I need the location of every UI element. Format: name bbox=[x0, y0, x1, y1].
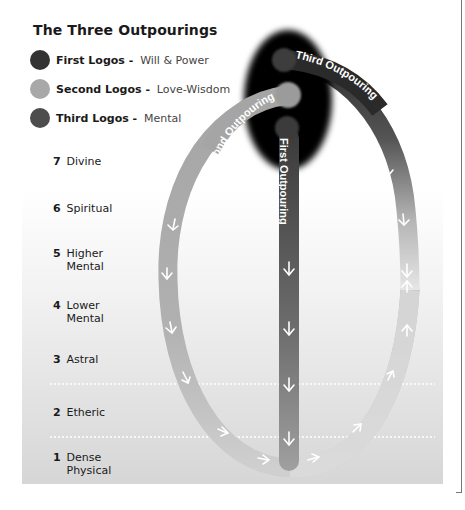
circle-dot-medium-icon bbox=[30, 108, 50, 128]
legend-separator: - bbox=[125, 54, 137, 67]
second-logos-dot bbox=[275, 82, 301, 108]
legend-item-second-logos: Second Logos - Love-Wisdom bbox=[30, 79, 230, 99]
plane-name: Lower Mental bbox=[67, 299, 104, 325]
first-outpouring-label: First Outpouring bbox=[278, 138, 290, 225]
plane-divine: 7 Divine bbox=[53, 155, 101, 168]
plane-number: 7 bbox=[53, 155, 63, 168]
legend-name: Second Logos bbox=[56, 83, 142, 96]
plane-name: Spiritual bbox=[67, 202, 113, 215]
diagram-title: The Three Outpourings bbox=[33, 22, 217, 38]
plane-name: Dense Physical bbox=[67, 451, 112, 477]
plane-name: Divine bbox=[67, 155, 102, 168]
plane-spiritual: 6 Spiritual bbox=[53, 202, 112, 215]
plane-name: Etheric bbox=[67, 406, 106, 419]
plane-number: 4 bbox=[53, 299, 63, 312]
legend-description: Will & Power bbox=[140, 54, 209, 67]
circle-dot-light-icon bbox=[30, 79, 50, 99]
legend-item-first-logos: First Logos - Will & Power bbox=[30, 50, 209, 70]
circle-dot-dark-icon bbox=[30, 50, 50, 70]
plane-lower-mental: 4 Lower Mental bbox=[53, 299, 104, 325]
legend-item-third-logos: Third Logos - Mental bbox=[30, 108, 181, 128]
plane-higher-mental: 5 Higher Mental bbox=[53, 247, 104, 273]
legend-separator: - bbox=[129, 112, 141, 125]
page-edge-tick bbox=[456, 492, 462, 493]
legend-separator: - bbox=[142, 83, 154, 96]
plane-etheric: 2 Etheric bbox=[53, 406, 105, 419]
plane-dense-physical: 1 Dense Physical bbox=[53, 451, 111, 477]
plane-number: 2 bbox=[53, 406, 63, 419]
first-logos-dot bbox=[275, 116, 299, 140]
plane-astral: 3 Astral bbox=[53, 353, 98, 366]
plane-number: 3 bbox=[53, 353, 63, 366]
legend-description: Mental bbox=[144, 112, 181, 125]
plane-number: 6 bbox=[53, 202, 63, 215]
legend-name: First Logos bbox=[56, 54, 125, 67]
page-edge-divider bbox=[461, 0, 462, 493]
plane-name: Astral bbox=[67, 353, 99, 366]
plane-name: Higher Mental bbox=[67, 247, 104, 273]
third-logos-dot bbox=[272, 48, 296, 72]
legend-description: Love-Wisdom bbox=[157, 83, 230, 96]
plane-number: 1 bbox=[53, 451, 63, 464]
plane-number: 5 bbox=[53, 247, 63, 260]
legend-name: Third Logos bbox=[56, 112, 129, 125]
